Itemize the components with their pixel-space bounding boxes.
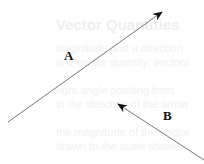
vector-b-label: B <box>163 108 172 124</box>
vector-a-arrow <box>8 12 162 122</box>
vector-diagram: Vector Quantities magnitude and a direct… <box>0 0 204 164</box>
vector-a-label: A <box>64 48 73 64</box>
vector-b-arrow <box>118 104 204 160</box>
arrows-canvas <box>0 0 204 164</box>
